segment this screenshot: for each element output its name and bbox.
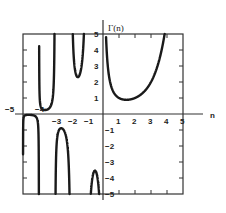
y-tick-label: 2 bbox=[94, 78, 99, 87]
y-tick-label: 4 bbox=[94, 46, 99, 55]
gamma-branch-1 bbox=[91, 171, 99, 194]
y-axis-title: Γ(n) bbox=[108, 23, 124, 33]
x-axis-title: n bbox=[210, 111, 215, 120]
x-tick-label: 2 bbox=[132, 117, 137, 126]
y-tick-label: −4 bbox=[105, 174, 115, 183]
gamma-branch-0 bbox=[106, 34, 165, 100]
y-tick-label: −3 bbox=[105, 158, 115, 167]
gamma-branch-2 bbox=[73, 34, 84, 77]
x-tick-label: 5 bbox=[180, 117, 185, 126]
gamma-branch-5 bbox=[23, 115, 39, 194]
x-tick-label: 1 bbox=[116, 117, 121, 126]
x-tick-label: −4 bbox=[35, 105, 45, 114]
gamma-function-plot: −5−4−3−2−11234554321−1−2−3−4−5 Γ(n) n bbox=[0, 0, 226, 213]
y-tick-label: 3 bbox=[94, 62, 99, 71]
gamma-branch-3 bbox=[56, 128, 70, 194]
y-tick-label: −1 bbox=[105, 126, 115, 135]
x-tick-label: −5 bbox=[5, 105, 15, 114]
y-tick-label: 5 bbox=[94, 30, 99, 39]
gamma-branch-4 bbox=[39, 34, 54, 110]
x-tick-label: 4 bbox=[164, 117, 169, 126]
y-tick-label: −5 bbox=[105, 190, 115, 199]
y-tick-label: 1 bbox=[94, 94, 99, 103]
x-tick-label: −2 bbox=[68, 117, 78, 126]
x-tick-label: 3 bbox=[148, 117, 153, 126]
y-tick-label: −2 bbox=[105, 142, 115, 151]
x-tick-label: −1 bbox=[84, 117, 94, 126]
x-tick-label: −3 bbox=[52, 117, 62, 126]
